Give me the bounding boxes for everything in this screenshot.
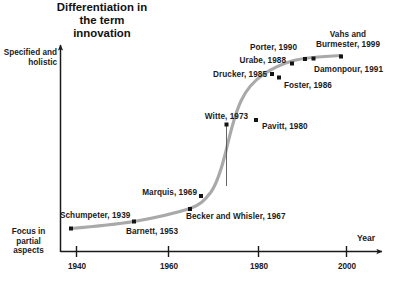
point-label-becker: Becker and Whisler, 1967 <box>186 212 286 222</box>
point-marker-vahs <box>339 55 343 59</box>
point-label-witte: Witte, 1973 <box>190 112 263 122</box>
y-axis-bottom-label-line-2: partial aspects <box>0 237 57 256</box>
y-axis-top-label: Specified and holistic <box>0 48 57 67</box>
point-label-drucker: Drucker, 1985 <box>203 70 267 80</box>
x-tick-label-1980: 1980 <box>239 262 279 271</box>
y-axis-bottom-label: Focus in partial aspects <box>0 227 57 256</box>
point-label-damonpour: Damonpour, 1991 <box>314 65 383 75</box>
point-label-schumpeter: Schumpeter, 1939 <box>60 211 130 221</box>
point-label-porter: Porter, 1990 <box>230 43 297 53</box>
point-marker-schumpeter <box>69 227 73 231</box>
point-marker-witte <box>225 123 229 127</box>
point-marker-porter <box>303 57 307 61</box>
y-axis-top-label-line-2: holistic <box>0 58 57 68</box>
point-marker-marquis <box>199 194 203 198</box>
point-marker-damonpour <box>312 57 316 61</box>
point-marker-becker <box>188 207 192 211</box>
y-axis-top-label-line-1: Specified and <box>0 48 57 58</box>
chart-canvas: Differentiation in the term innovation <box>0 0 399 283</box>
x-tick-label-1940: 1940 <box>57 262 97 271</box>
point-label-marquis: Marquis, 1969 <box>130 188 197 198</box>
point-label-vahs-burmester: Vahs and Burmester, 1999 <box>300 30 396 50</box>
y-axis-bottom-label-line-1: Focus in <box>0 227 57 237</box>
x-tick-label-1960: 1960 <box>149 262 189 271</box>
point-label-vahs-line-1: Vahs and <box>300 30 396 40</box>
x-tick-label-2000: 2000 <box>327 262 367 271</box>
point-label-urabe: Urabe, 1988 <box>226 56 286 66</box>
x-axis-title: Year <box>357 233 375 243</box>
point-marker-barnett <box>132 220 136 224</box>
point-marker-foster <box>277 76 281 80</box>
point-marker-drucker <box>270 72 274 76</box>
point-label-pavitt: Pavitt, 1980 <box>262 122 308 132</box>
point-marker-urabe <box>290 62 294 66</box>
point-label-vahs-line-2: Burmester, 1999 <box>300 40 396 50</box>
point-label-foster: Foster, 1986 <box>284 81 332 91</box>
point-label-barnett: Barnett, 1953 <box>126 227 178 237</box>
